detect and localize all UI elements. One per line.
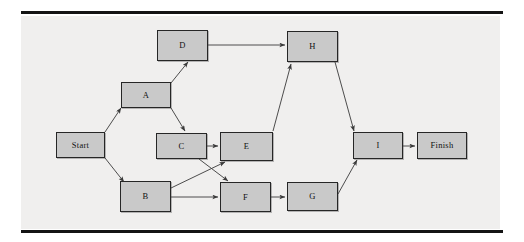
edge-g-to-i bbox=[338, 160, 357, 194]
node-label-h: H bbox=[309, 42, 315, 51]
node-label-d: D bbox=[179, 41, 185, 50]
flowchart-figure: StartABCDEFGHIFinish bbox=[0, 0, 524, 242]
bottom-rule-line bbox=[21, 230, 503, 233]
node-label-b: B bbox=[143, 192, 149, 201]
edge-b-to-e bbox=[171, 162, 225, 188]
node-label-g: G bbox=[309, 192, 315, 201]
node-h[interactable]: H bbox=[287, 31, 338, 62]
node-i[interactable]: I bbox=[353, 132, 403, 159]
node-c[interactable]: C bbox=[156, 133, 207, 159]
diagram-canvas: StartABCDEFGHIFinish bbox=[21, 16, 500, 229]
node-label-c: C bbox=[179, 142, 185, 151]
node-finish[interactable]: Finish bbox=[417, 132, 467, 159]
edge-e-to-h bbox=[273, 64, 291, 131]
edge-start-to-a bbox=[105, 108, 121, 132]
edge-a-to-d bbox=[171, 62, 188, 83]
node-label-e: E bbox=[244, 142, 250, 151]
node-g[interactable]: G bbox=[287, 182, 338, 211]
node-f[interactable]: F bbox=[220, 182, 271, 212]
node-label-start: Start bbox=[72, 141, 90, 150]
node-a[interactable]: A bbox=[121, 82, 171, 108]
node-label-f: F bbox=[243, 193, 248, 202]
node-d[interactable]: D bbox=[157, 30, 208, 61]
node-e[interactable]: E bbox=[220, 132, 273, 161]
node-b[interactable]: B bbox=[120, 181, 171, 212]
node-label-a: A bbox=[143, 91, 149, 100]
edge-start-to-b bbox=[105, 158, 124, 182]
edge-h-to-i bbox=[335, 62, 354, 131]
top-rule-line bbox=[21, 11, 503, 14]
edge-group bbox=[105, 45, 415, 197]
node-label-finish: Finish bbox=[430, 141, 453, 150]
node-label-i: I bbox=[376, 141, 379, 150]
edge-a-to-c bbox=[171, 108, 185, 131]
node-start[interactable]: Start bbox=[56, 132, 105, 158]
